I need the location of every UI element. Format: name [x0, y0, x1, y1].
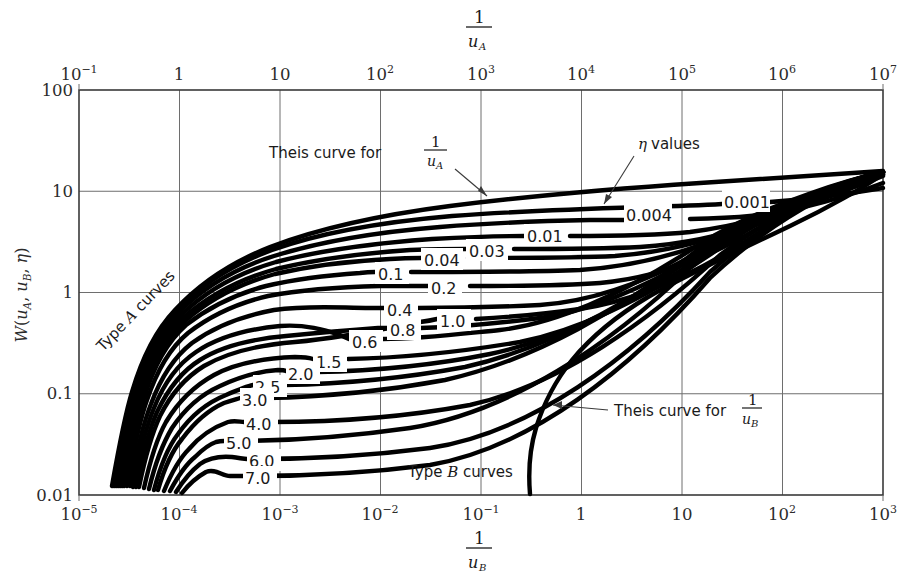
- svg-text:103: 103: [467, 63, 495, 84]
- svg-text:1: 1: [576, 505, 587, 524]
- curve-label-0.004: 0.004: [626, 206, 672, 225]
- top-tick-2-mantissa: 10: [270, 65, 291, 84]
- svg-text:102: 102: [768, 503, 796, 524]
- left-tick-0.01: 0.01: [36, 486, 73, 505]
- top-tick-5-mantissa: 10: [567, 65, 588, 84]
- svg-text:10−5: 10−5: [60, 503, 97, 524]
- top-axis-tick-labels: 10−1 1 10 102 103 104 105 106 107: [60, 63, 897, 84]
- left-tick-1: 1: [63, 283, 74, 302]
- top-axis-title-denominator: u: [468, 32, 478, 51]
- top-tick-8-exponent: 7: [890, 63, 897, 76]
- eta-symbol: η: [638, 135, 647, 153]
- theis-ua-text: Theis curve for: [268, 144, 382, 162]
- svg-text:10−3: 10−3: [261, 503, 298, 524]
- bottom-tick-7-exponent: 2: [789, 503, 796, 516]
- top-axis-title-numerator: 1: [474, 7, 485, 27]
- top-tick-6-mantissa: 10: [668, 65, 689, 84]
- curve-label-0.03: 0.03: [469, 242, 505, 261]
- svg-text:10: 10: [270, 65, 291, 84]
- type-b-post: curves: [458, 463, 513, 481]
- bottom-axis-title-numerator: 1: [474, 528, 485, 548]
- curve-label-0.2: 0.2: [431, 279, 456, 298]
- theis-ua-frac-numerator: 1: [431, 133, 441, 151]
- bottom-tick-3-exponent: −2: [382, 503, 398, 516]
- theis-ua-frac-subscript: A: [435, 160, 443, 171]
- top-tick-4-exponent: 3: [488, 63, 495, 76]
- left-tick-100: 100: [42, 81, 74, 100]
- bottom-tick-8-mantissa: 10: [869, 505, 890, 524]
- annotation-eta-values: η values: [604, 135, 700, 204]
- curve-label-3.0: 3.0: [242, 391, 267, 410]
- top-axis-title-subscript: A: [478, 41, 486, 52]
- top-tick-5-exponent: 4: [588, 63, 595, 76]
- svg-text:104: 104: [567, 63, 595, 84]
- top-tick-8-mantissa: 10: [869, 65, 890, 84]
- curve-label-1.0: 1.0: [440, 312, 465, 331]
- curve-label-0.4: 0.4: [387, 301, 412, 320]
- y-title-w: W: [12, 324, 31, 342]
- top-tick-7-exponent: 6: [789, 63, 796, 76]
- y-title-ub: u: [12, 281, 31, 291]
- curve-label-0.1: 0.1: [378, 265, 403, 284]
- left-tick-0.1: 0.1: [47, 384, 73, 403]
- y-title-comma1: ,: [12, 292, 31, 302]
- top-tick-0-exponent: −1: [81, 63, 97, 76]
- bottom-tick-1-mantissa: 10: [160, 505, 181, 524]
- top-tick-3-mantissa: 10: [366, 65, 387, 84]
- left-axis-tick-labels: 100 10 1 0.1 0.01: [36, 81, 73, 505]
- bottom-tick-0-exponent: −5: [81, 503, 97, 516]
- svg-text:106: 106: [768, 63, 796, 84]
- theis-ua-frac-denominator: u: [427, 153, 436, 169]
- bottom-axis-title: 1 u B: [466, 528, 492, 573]
- svg-text:107: 107: [869, 63, 897, 84]
- theis-ub-text: Theis curve for: [613, 402, 727, 420]
- theis-ub-frac-numerator: 1: [748, 391, 758, 409]
- bottom-tick-4-mantissa: 10: [462, 505, 483, 524]
- bottom-axis-title-denominator: u: [468, 553, 478, 572]
- bottom-tick-1-exponent: −4: [181, 503, 197, 516]
- annotation-type-b: Type B curves: [407, 463, 513, 481]
- curve-label-0.04: 0.04: [424, 251, 460, 270]
- bottom-tick-0-mantissa: 10: [60, 505, 81, 524]
- bottom-tick-2-mantissa: 10: [261, 505, 282, 524]
- curve-label-0.6: 0.6: [352, 333, 377, 352]
- y-title-ub-sub: B: [21, 273, 33, 282]
- svg-text:Type B curves: Type B curves: [407, 463, 513, 481]
- type-b-letter: B: [446, 463, 458, 481]
- annotation-theis-ua: Theis curve for 1 u A: [268, 133, 487, 196]
- svg-text:1: 1: [174, 65, 185, 84]
- bottom-tick-6-mantissa: 10: [672, 505, 693, 524]
- svg-text:10−1: 10−1: [462, 503, 499, 524]
- eta-values-text: values: [651, 135, 700, 153]
- bottom-tick-7-mantissa: 10: [768, 505, 789, 524]
- y-title-comma2: ,: [12, 263, 31, 273]
- top-tick-4-mantissa: 10: [467, 65, 488, 84]
- theis-ub-frac-denominator: u: [742, 411, 751, 427]
- svg-text:105: 105: [668, 63, 696, 84]
- svg-text:103: 103: [869, 503, 897, 524]
- top-tick-1-mantissa: 1: [174, 65, 185, 84]
- svg-text:W(uA, uB, η): W(uA, uB, η): [12, 248, 33, 343]
- bottom-tick-8-exponent: 3: [890, 503, 897, 516]
- svg-text:10−2: 10−2: [361, 503, 398, 524]
- y-axis-title: W(uA, uB, η): [12, 248, 33, 343]
- y-title-eta: η: [12, 253, 31, 263]
- curve-label-7.0: 7.0: [245, 469, 270, 488]
- bottom-axis-title-subscript: B: [478, 562, 486, 573]
- bottom-tick-2-exponent: −3: [282, 503, 298, 516]
- theis-ub-frac-subscript: B: [750, 418, 758, 429]
- curve-label-2.0: 2.0: [288, 365, 313, 384]
- bottom-tick-3-mantissa: 10: [361, 505, 382, 524]
- top-axis-title: 1 u A: [466, 7, 492, 52]
- curve-label-0.001: 0.001: [724, 193, 770, 212]
- bottom-tick-5-mantissa: 1: [576, 505, 587, 524]
- top-tick-6-exponent: 5: [689, 63, 696, 76]
- curve-label-0.8: 0.8: [390, 321, 415, 340]
- type-curve-figure: 0.001 0.004 0.01 0.03 0.04 0.1 0.2 0.4 1…: [0, 0, 909, 577]
- curve-label-0.01: 0.01: [527, 227, 563, 246]
- y-title-close: ): [12, 248, 31, 254]
- bottom-tick-4-exponent: −1: [483, 503, 499, 516]
- svg-text:10−4: 10−4: [160, 503, 197, 524]
- svg-text:10: 10: [672, 505, 693, 524]
- top-tick-7-mantissa: 10: [768, 65, 789, 84]
